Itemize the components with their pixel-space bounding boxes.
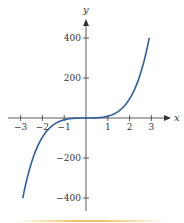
chart: −3−2−1123400200−200−400 x y [0, 0, 184, 223]
y-tick-label: −400 [56, 193, 81, 203]
x-tick-label: 3 [149, 122, 155, 132]
x-tick-label: 2 [127, 122, 133, 132]
y-axis-arrow-icon [83, 19, 89, 26]
y-tick-label: −200 [56, 153, 81, 163]
x-tick-label: −3 [14, 122, 28, 132]
x-axis-label: x [174, 112, 180, 123]
x-tick-label: −1 [58, 122, 71, 132]
x-tick-label: 1 [105, 122, 111, 132]
x-axis-arrow-icon [164, 115, 171, 121]
y-axis-label: y [82, 4, 89, 15]
y-tick-label: 200 [64, 73, 81, 83]
y-tick-label: 400 [64, 33, 81, 43]
decorative-bottom-band [14, 220, 166, 222]
